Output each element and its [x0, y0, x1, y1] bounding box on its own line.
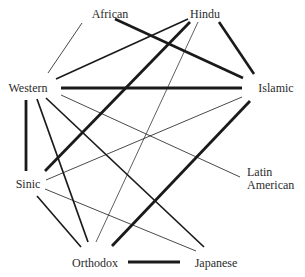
- edge-african-western: [48, 23, 82, 73]
- edge-hindu-islamic: [219, 22, 254, 74]
- civilization-relations-diagram: African Hindu Western Islamic Latin Amer…: [0, 0, 305, 277]
- node-sinic: Sinic: [16, 178, 41, 191]
- edge-hindu-sinic: [45, 22, 190, 171]
- node-islamic: Islamic: [258, 82, 293, 95]
- node-hindu: Hindu: [190, 8, 220, 21]
- node-latin-american: Latin American: [247, 166, 305, 192]
- node-african: African: [92, 8, 129, 21]
- node-western: Western: [8, 82, 47, 95]
- node-latin-american-line2: American: [247, 179, 305, 192]
- edge-sinic-japanese: [45, 189, 196, 251]
- node-orthodox: Orthodox: [72, 257, 118, 270]
- edge-hindu-western: [56, 19, 188, 79]
- node-japanese: Japanese: [195, 257, 238, 270]
- edges-layer: [0, 0, 305, 277]
